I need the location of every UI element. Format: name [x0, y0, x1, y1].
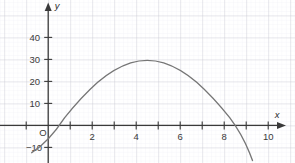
graph-figure: 2 4 6 8 10 10 20 30 40 −10 O x y — [0, 0, 295, 163]
origin-label: O — [39, 127, 46, 138]
x-tick-label-8: 8 — [222, 131, 227, 142]
coordinate-plot: 2 4 6 8 10 10 20 30 40 −10 O x y — [0, 0, 295, 163]
x-tick-label-2: 2 — [90, 131, 95, 142]
y-tick-label-10: 10 — [29, 98, 40, 109]
y-tick-label-40: 40 — [29, 32, 40, 43]
x-tick-label-10: 10 — [263, 131, 274, 142]
x-tick-label-4: 4 — [134, 131, 139, 142]
y-tick-label-30: 30 — [29, 54, 40, 65]
y-tick-label-20: 20 — [29, 76, 40, 87]
x-tick-label-6: 6 — [178, 131, 183, 142]
